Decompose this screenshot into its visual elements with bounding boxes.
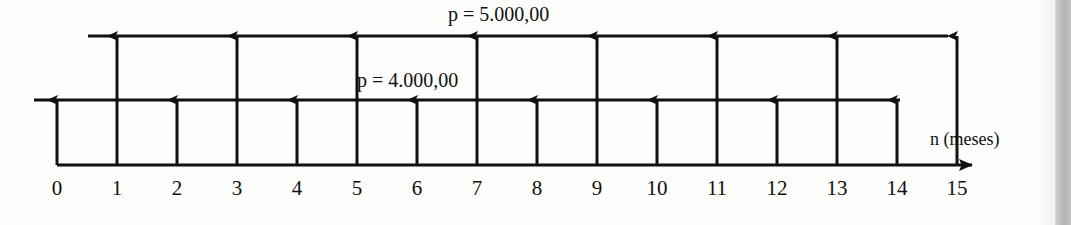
scan-edge-strip xyxy=(1053,0,1071,225)
cash-flow-diagram-screenshot: p = 5.000,00 p = 4.000,00 n (meses) 0 1 … xyxy=(0,0,1071,225)
tick-label-3: 3 xyxy=(217,178,257,199)
tick-label-11: 11 xyxy=(697,178,737,199)
scan-edge-gradient xyxy=(1037,0,1053,225)
tick-label-12: 12 xyxy=(757,178,797,199)
tick-label-9: 9 xyxy=(577,178,617,199)
tick-label-7: 7 xyxy=(457,178,497,199)
tick-label-1: 1 xyxy=(97,178,137,199)
tick-label-2: 2 xyxy=(157,178,197,199)
tick-label-4: 4 xyxy=(277,178,317,199)
tick-label-10: 10 xyxy=(637,178,677,199)
tick-label-14: 14 xyxy=(877,178,917,199)
time-axis-label: n (meses) xyxy=(930,130,999,148)
tick-label-13: 13 xyxy=(817,178,857,199)
tick-label-6: 6 xyxy=(397,178,437,199)
tick-label-5: 5 xyxy=(337,178,377,199)
tick-label-8: 8 xyxy=(517,178,557,199)
lower-level-amount-label: p = 4.000,00 xyxy=(357,70,458,90)
tick-label-15: 15 xyxy=(937,178,977,199)
upper-level-amount-label: p = 5.000,00 xyxy=(448,4,549,24)
tick-label-0: 0 xyxy=(37,178,77,199)
